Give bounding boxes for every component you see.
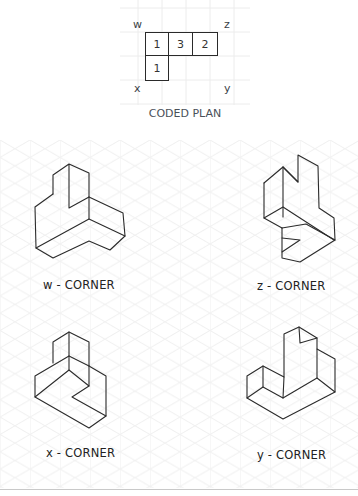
z-corner-shape — [264, 155, 335, 262]
figure-label-z: z - CORNER — [257, 279, 325, 293]
figure-label-x: x - CORNER — [46, 446, 115, 460]
y-corner-shape — [247, 327, 335, 419]
figure-label-w: w - CORNER — [43, 278, 115, 292]
figure-label-y: y - CORNER — [257, 448, 326, 462]
x-corner-shape — [35, 332, 106, 428]
w-corner-shape — [35, 164, 125, 258]
w-corner-drawing — [0, 0, 358, 496]
bottom-separator — [0, 489, 358, 490]
